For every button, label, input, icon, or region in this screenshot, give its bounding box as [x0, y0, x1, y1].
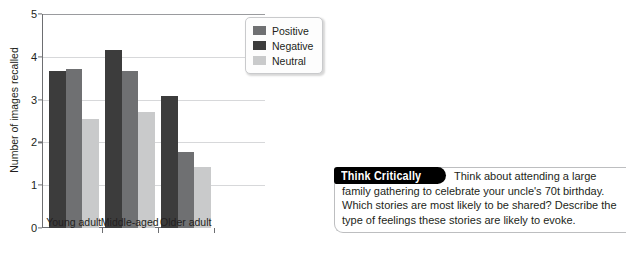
x-tick-label: Older adult: [160, 216, 211, 228]
legend-item-positive: Positive: [253, 23, 313, 38]
y-tick-label: 5: [23, 8, 37, 20]
y-tick-label: 0: [23, 222, 37, 234]
legend-swatch-icon: [253, 41, 266, 50]
legend-item-neutral: Neutral: [253, 53, 313, 68]
x-tick-label: Middle-aged: [101, 216, 159, 228]
y-tick-mark: [38, 56, 43, 57]
legend-label: Neutral: [272, 55, 306, 67]
y-tick-mark: [38, 13, 43, 14]
y-tick-label: 4: [23, 51, 37, 63]
legend-label: Negative: [272, 40, 313, 52]
y-tick-label: 3: [23, 94, 37, 106]
callout-text: Think about attending a large family gat…: [342, 169, 622, 227]
x-tick-mark: [214, 228, 215, 233]
think-critically-callout: Think Critically Think about attending a…: [334, 167, 626, 233]
y-tick-mark: [38, 185, 43, 186]
figure-root: Number of images recalled 012345 Young a…: [0, 0, 630, 255]
bar-negative-middle-aged: [105, 50, 122, 228]
legend-swatch-icon: [253, 56, 266, 65]
bar-neutral-middle-aged: [138, 112, 155, 228]
y-axis-label: Number of images recalled: [8, 25, 20, 195]
x-tick-mark: [158, 228, 159, 233]
bar-positive-middle-aged: [122, 71, 139, 229]
x-tick-label: Young adult: [46, 216, 101, 228]
bar-negative-older-adult: [161, 96, 178, 228]
x-tick-mark: [102, 228, 103, 233]
legend-label: Positive: [272, 25, 309, 37]
y-tick-mark: [38, 227, 43, 228]
chart-legend: PositiveNegativeNeutral: [245, 17, 323, 74]
y-tick-label: 1: [23, 179, 37, 191]
bar-chart: Number of images recalled 012345 Young a…: [0, 0, 330, 255]
bar-neutral-young-adult: [82, 119, 99, 228]
legend-swatch-icon: [253, 26, 266, 35]
bar-negative-young-adult: [49, 71, 66, 228]
callout-text-content: Think about attending a large family gat…: [342, 170, 617, 226]
y-tick-mark: [38, 99, 43, 100]
y-tick-label: 2: [23, 136, 37, 148]
y-tick-mark: [38, 142, 43, 143]
bar-positive-young-adult: [66, 69, 83, 228]
legend-item-negative: Negative: [253, 38, 313, 53]
